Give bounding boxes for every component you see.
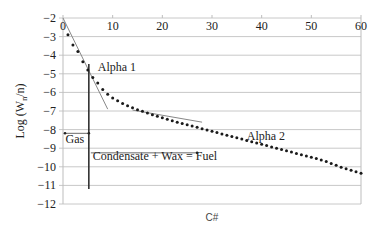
data-point bbox=[215, 131, 218, 134]
y-tick-label: −5 bbox=[43, 67, 56, 81]
data-point bbox=[220, 132, 223, 135]
x-tick-label: 30 bbox=[206, 19, 218, 33]
x-tick-label: 20 bbox=[156, 19, 168, 33]
data-point bbox=[96, 82, 99, 85]
data-point bbox=[76, 50, 79, 53]
y-tick-label: −8 bbox=[43, 123, 56, 137]
data-point bbox=[350, 169, 353, 172]
data-point bbox=[360, 172, 363, 175]
chart: −2−3−4−5−6−7−8−9−10−11−120102030405060 A… bbox=[0, 0, 382, 230]
y-tick-label: −10 bbox=[37, 160, 56, 174]
arrow-head bbox=[88, 132, 91, 135]
grid bbox=[59, 18, 361, 204]
x-tick-label: 10 bbox=[107, 19, 119, 33]
y-axis-label-end: /n) bbox=[13, 84, 27, 97]
data-point bbox=[345, 167, 348, 170]
data-point bbox=[186, 123, 189, 126]
data-point bbox=[66, 33, 69, 36]
data-point bbox=[71, 43, 74, 46]
y-tick-label: −6 bbox=[43, 85, 56, 99]
data-point bbox=[290, 151, 293, 154]
data-point bbox=[225, 134, 228, 137]
data-point bbox=[295, 152, 298, 155]
y-tick-label: −9 bbox=[43, 141, 56, 155]
data-point bbox=[211, 130, 214, 133]
y-axis-label: Log (Wn/n) bbox=[13, 84, 29, 139]
data-point bbox=[315, 157, 318, 160]
data-point bbox=[191, 125, 194, 128]
data-point bbox=[201, 127, 204, 130]
axes bbox=[63, 15, 361, 204]
data-point bbox=[131, 106, 134, 109]
data-point bbox=[355, 170, 358, 173]
data-point bbox=[270, 145, 273, 148]
data-point bbox=[320, 158, 323, 161]
data-point bbox=[305, 155, 308, 158]
data-point bbox=[181, 122, 184, 125]
annotation-label: Gas bbox=[65, 132, 84, 146]
x-tick-label: 60 bbox=[355, 19, 367, 33]
data-point bbox=[275, 147, 278, 150]
y-tick-label: −4 bbox=[43, 48, 56, 62]
data-point bbox=[166, 118, 169, 121]
y-tick-label: −12 bbox=[37, 197, 56, 211]
y-tick-label: −2 bbox=[43, 11, 56, 25]
data-point bbox=[235, 136, 238, 139]
data-point bbox=[161, 116, 164, 119]
data-point bbox=[340, 166, 343, 169]
data-point bbox=[121, 102, 124, 105]
data-point bbox=[106, 93, 109, 96]
data-point bbox=[141, 110, 144, 113]
data-point bbox=[335, 164, 338, 167]
data-point bbox=[101, 88, 104, 91]
data-point bbox=[91, 76, 94, 79]
data-point bbox=[330, 162, 333, 165]
data-point bbox=[280, 148, 283, 151]
x-tick-label: 0 bbox=[60, 19, 66, 33]
annotation-label: Alpha 2 bbox=[247, 129, 285, 143]
data-point bbox=[230, 135, 233, 138]
data-point bbox=[81, 60, 84, 63]
data-point bbox=[146, 112, 149, 115]
x-axis-label: C# bbox=[206, 212, 219, 223]
data-point bbox=[151, 113, 154, 116]
data-point bbox=[206, 128, 209, 131]
data-point bbox=[196, 126, 199, 129]
data-point bbox=[300, 153, 303, 156]
y-tick-label: −11 bbox=[38, 178, 56, 192]
data-point bbox=[156, 115, 159, 118]
data-point bbox=[325, 160, 328, 163]
data-point bbox=[240, 138, 243, 141]
x-tick-label: 50 bbox=[305, 19, 317, 33]
data-point bbox=[260, 143, 263, 146]
y-axis-label-main: Log (W bbox=[13, 100, 27, 138]
annotation-label: Condensate + Wax = Fuel bbox=[93, 149, 218, 163]
data-point bbox=[285, 149, 288, 152]
data-point bbox=[265, 144, 268, 147]
reference-lines bbox=[63, 18, 202, 189]
x-tick-label: 40 bbox=[256, 19, 268, 33]
data-point bbox=[86, 69, 89, 72]
data-point bbox=[176, 121, 179, 124]
y-tick-label: −3 bbox=[43, 30, 56, 44]
data-point bbox=[136, 108, 139, 111]
data-point bbox=[310, 156, 313, 159]
data-point bbox=[111, 96, 114, 99]
y-tick-label: −7 bbox=[43, 104, 56, 118]
data-point bbox=[116, 99, 119, 102]
data-point bbox=[126, 104, 129, 107]
annotation-label: Alpha 1 bbox=[98, 60, 136, 74]
data-point bbox=[171, 119, 174, 122]
